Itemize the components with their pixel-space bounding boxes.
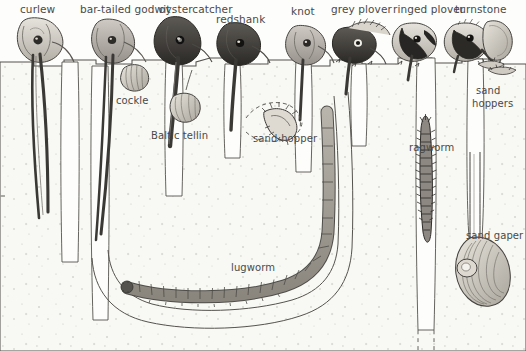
label-sand-hoppers-line2: hoppers xyxy=(472,99,513,109)
label-curlew: curlew xyxy=(20,4,55,15)
label-knot: knot xyxy=(291,6,315,17)
label-ragworm: ragworm xyxy=(409,143,454,153)
figure-canvas: curlew bar-tailed godwit oystercatcher r… xyxy=(0,0,526,351)
label-lugworm: lugworm xyxy=(231,263,275,273)
label-cockle: cockle xyxy=(116,96,148,106)
label-sand-hopper: sand-hopper xyxy=(253,134,317,144)
label-sand-gaper: sand gaper xyxy=(466,231,523,241)
label-sand-hoppers-line1: sand xyxy=(476,86,500,96)
label-turnstone: turnstone xyxy=(455,4,507,15)
label-grey-plover: grey plover xyxy=(331,4,392,15)
label-baltic-tellin: Baltic tellin xyxy=(151,131,208,141)
mudflat-cross-section-illustration xyxy=(0,0,526,351)
label-ringed-plover: ringed plover xyxy=(393,4,464,15)
prey-cockle xyxy=(121,65,149,91)
label-redshank: redshank xyxy=(216,14,265,25)
label-bar-tailed-godwit: bar-tailed godwit xyxy=(80,4,170,15)
